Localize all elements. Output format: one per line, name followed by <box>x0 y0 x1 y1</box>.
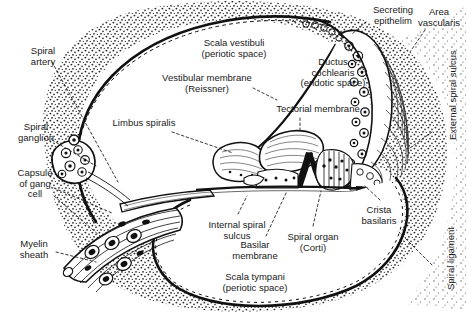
label-external-spiral-sulcus: External spiral sulcus <box>448 50 459 140</box>
label-scala-vestibuli: Scala vestibuli (periotic space) <box>182 38 286 59</box>
label-spiral-ganglion: Spiral ganglion <box>4 122 68 143</box>
label-internal-spiral-sulcus: Internal spiral sulcus <box>196 220 278 241</box>
label-area-vascularis: Area vascularis <box>414 7 464 28</box>
label-capsule-of-gang-cell: Capsule of gang cell <box>6 168 64 200</box>
label-ductus-cochlearis: Ductus cochlearis (endotic space) <box>286 57 380 89</box>
label-scala-tympani: Scala tympani (periotic space) <box>205 272 305 293</box>
label-crista-basilaris: Crista basilaris <box>352 205 406 226</box>
label-vestibular-membrane: Vestibular membrane (Reissner) <box>143 73 271 94</box>
cochlea-histology-figure: Spiral arterySpiral ganglionCapsule of g… <box>0 0 467 321</box>
label-spiral-artery: Spiral artery <box>14 46 72 67</box>
spiral-artery <box>69 135 79 145</box>
label-tectorial-membrane: Tectorial membrane <box>262 104 374 115</box>
label-spiral-ligament: Spiral ligament <box>446 227 457 290</box>
label-limbus-spiralis: Limbus spiralis <box>102 118 186 129</box>
label-spiral-organ-corti: Spiral organ (Corti) <box>275 232 351 253</box>
label-myelin-sheath: Myelin sheath <box>6 239 62 260</box>
